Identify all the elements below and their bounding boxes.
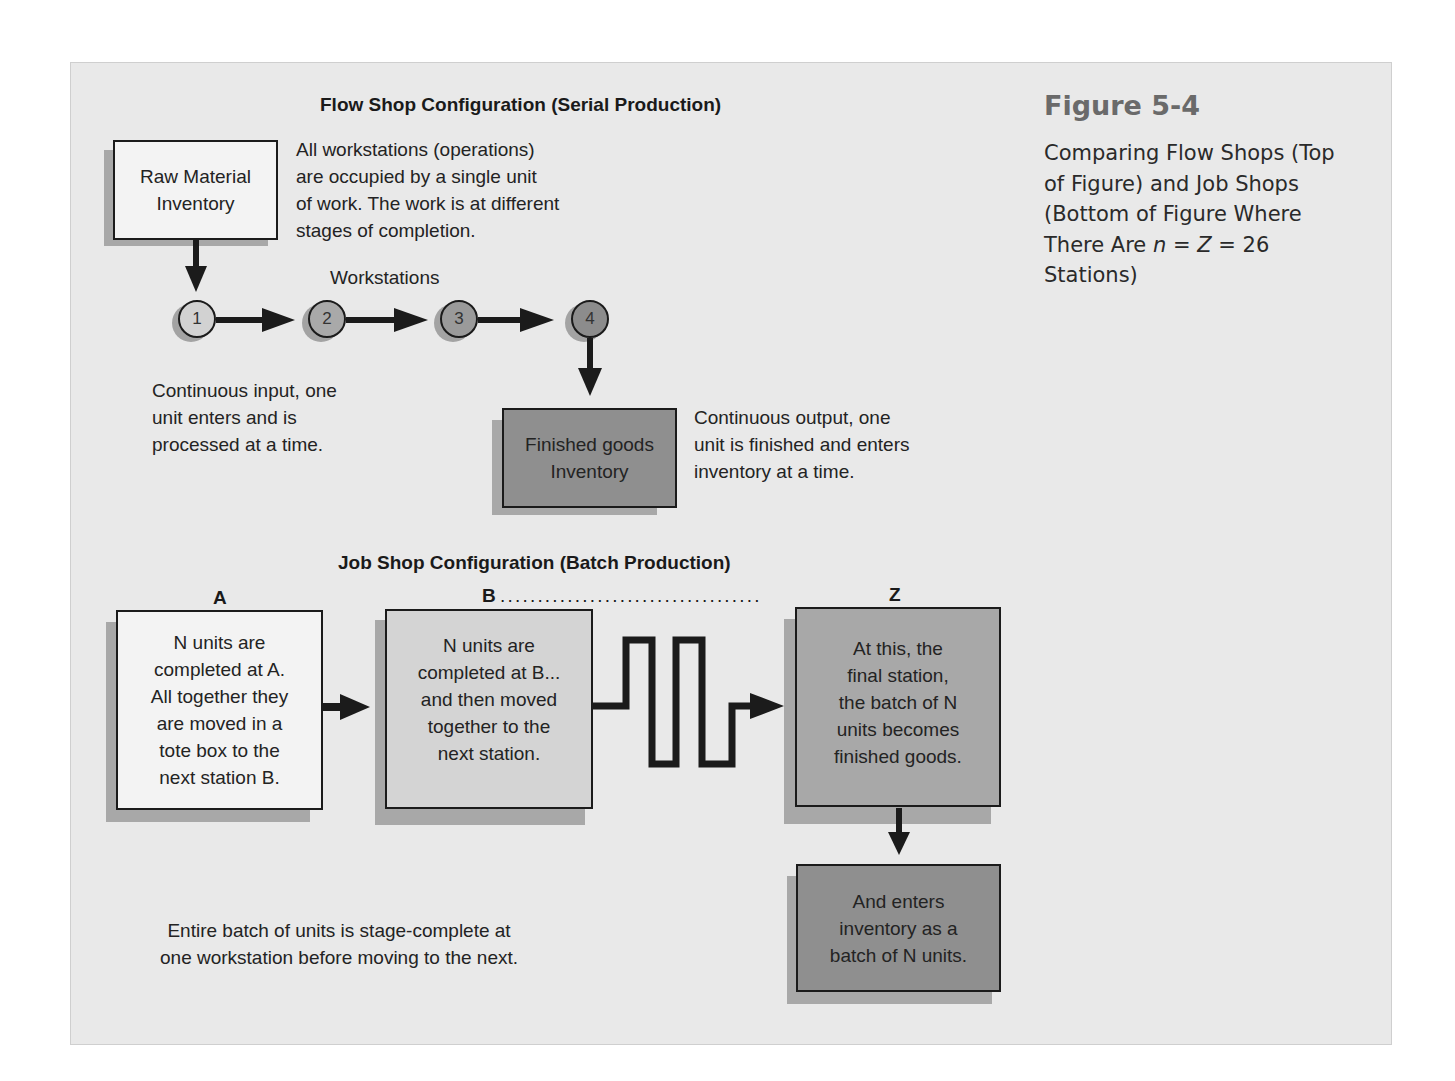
arrow-right-icon bbox=[346, 308, 428, 332]
arrow-right-icon bbox=[478, 308, 554, 332]
arrow-right-icon bbox=[323, 694, 370, 720]
connector-layer bbox=[0, 0, 1455, 1081]
zigzag-path-icon bbox=[593, 640, 784, 764]
arrow-down-icon bbox=[578, 338, 602, 396]
arrow-down-icon bbox=[888, 808, 910, 855]
arrow-down-icon bbox=[185, 240, 207, 292]
arrow-right-icon bbox=[216, 308, 295, 332]
